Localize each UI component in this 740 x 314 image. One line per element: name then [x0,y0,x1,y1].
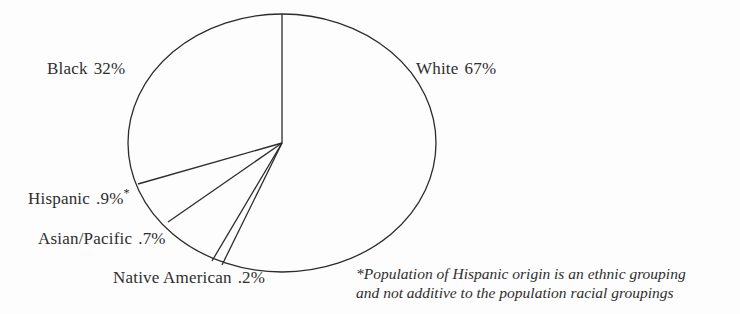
pie-label-hispanic: Hispanic.9%* [28,186,130,209]
pie-label-asian-pacific-value: .7% [138,229,166,248]
pie-label-black-value: 32% [94,59,126,78]
pie-label-native-american: Native American.2% [113,268,265,288]
pie-label-hispanic-name: Hispanic [28,189,90,208]
pie-label-asian-pacific: Asian/Pacific.7% [38,229,166,249]
pie-label-black: Black32% [47,59,125,79]
pie-label-white: White67% [416,59,496,79]
footnote-marker-icon: * [124,186,130,200]
pie-label-native-american-value: .2% [238,268,266,287]
chart-footnote-line-2: and not additive to the population racia… [356,283,732,302]
pie-chart-figure: White67% Black32% Hispanic.9%* Asian/Pac… [0,0,740,314]
pie-label-white-value: 67% [465,59,497,78]
pie-label-black-name: Black [47,59,88,78]
pie-label-native-american-name: Native American [113,268,232,287]
pie-label-asian-pacific-name: Asian/Pacific [38,229,132,248]
chart-footnote-line-1: *Population of Hispanic origin is an eth… [356,264,732,283]
pie-label-hispanic-value: .9% [96,189,124,208]
chart-footnote: *Population of Hispanic origin is an eth… [356,264,732,302]
pie-label-white-name: White [416,59,459,78]
slice-boundary-asian-native [212,143,282,261]
slice-boundary-black-hispanic [138,143,282,184]
slice-boundary-native-white [222,143,282,265]
slice-boundary-hispanic-asian [168,143,282,222]
